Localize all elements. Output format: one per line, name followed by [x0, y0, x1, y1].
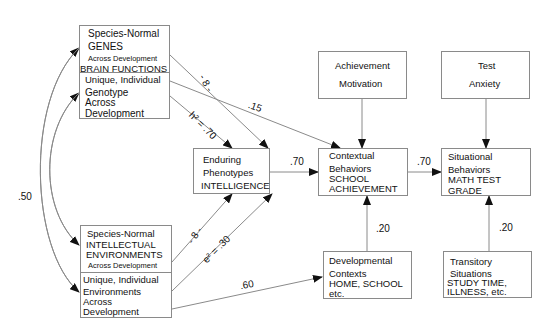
achievement-motivation-box: Achievement Motivation [318, 51, 407, 99]
arc-env-genotype [50, 93, 79, 245]
env-bottom-line4: Development [83, 307, 139, 317]
phenotypes-box: Enduring Phenotypes INTELLIGENCE [193, 148, 270, 194]
arc-genotype-env [50, 93, 79, 245]
env-divider [81, 272, 171, 273]
situational-behaviors-box: Situational Behaviors MATH TEST GRADE [441, 148, 531, 196]
situational-line3: MATH TEST [448, 175, 501, 185]
anxiety-line1: Test [478, 61, 495, 71]
label-developmental-contextual: .20 [376, 224, 390, 234]
genes-bottom-line3: Across [85, 98, 116, 108]
phenotypes-line3: INTELLIGENCE [201, 181, 270, 191]
genes-bottom-line1: Unique, Individual [85, 75, 161, 85]
genes-top-line2: GENES [88, 42, 123, 52]
phenotypes-line1: Enduring [203, 155, 241, 165]
label-phenotypes-contextual: .70 [290, 157, 304, 167]
transitory-situations-box: Transitory Situations STUDY TIME, ILLNES… [443, 251, 532, 298]
transitory-line4: ILLNESS, etc. [447, 287, 507, 297]
situational-line4: GRADE [448, 186, 482, 196]
edge-env-phenotypes [172, 194, 232, 262]
genes-box: Species-Normal GENES Across Development … [79, 25, 170, 119]
phenotypes-line2: Phenotypes [203, 168, 253, 178]
transitory-line1: Transitory [450, 257, 492, 267]
label-transitory-situational: .20 [499, 223, 513, 233]
env-bottom-line1: Unique, Individual [83, 275, 159, 285]
situational-line1: Situational [448, 152, 492, 162]
arc-genes-env [40, 48, 79, 292]
motivation-line2: Motivation [339, 79, 382, 89]
env-top-line3: ENVIRONMENTS [86, 250, 163, 260]
developmental-line1: Developmental [329, 256, 392, 266]
genes-top-line1: Species-Normal [88, 29, 159, 39]
contextual-line4: ACHIEVEMENT [329, 184, 398, 194]
genes-top-line3: Across Development [88, 55, 157, 63]
developmental-line4: etc. [329, 289, 344, 299]
environments-box: Species-Normal INTELLECTUAL ENVIRONMENTS… [80, 225, 172, 318]
label-contextual-situational: .70 [417, 157, 431, 167]
test-anxiety-box: Test Anxiety [441, 51, 530, 99]
path-diagram: Species-Normal GENES Across Development … [0, 0, 551, 330]
motivation-line1: Achievement [335, 61, 390, 71]
env-top-line4: Across Development [88, 262, 157, 270]
genes-bottom-line4: Development [85, 109, 144, 119]
contextual-line1: Contextual [329, 151, 374, 161]
arc-env-genes [40, 48, 79, 292]
contextual-behaviors-box: Contextual Behaviors SCHOOL ACHIEVEMENT [318, 148, 408, 196]
genes-divider [80, 72, 169, 73]
developmental-contexts-box: Developmental Contexts HOME, SCHOOL etc. [323, 251, 412, 299]
anxiety-line2: Anxiety [469, 79, 500, 89]
env-top-line1: Species-Normal [87, 229, 155, 239]
label-correlation-50: .50 [18, 192, 32, 202]
